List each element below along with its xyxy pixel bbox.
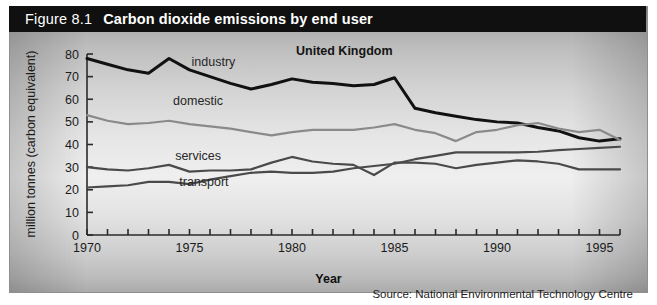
y-tick-label: 70 — [65, 70, 79, 84]
x-tick-label: 1980 — [278, 241, 306, 255]
series-line-transport — [87, 147, 620, 188]
y-tick-label: 40 — [65, 138, 79, 152]
series-label-industry: industry — [192, 55, 237, 69]
series-label-transport: transport — [179, 175, 229, 189]
series-label-services: services — [175, 149, 221, 163]
y-tick-group: 01020304050607080 — [65, 48, 93, 243]
x-tick-label: 1995 — [586, 241, 614, 255]
series-group — [87, 59, 620, 188]
line-chart: 01020304050607080 1970197519801985199019… — [0, 0, 657, 305]
x-tick-label: 1975 — [176, 241, 204, 255]
figure-container: Figure 8.1 Carbon dioxide emissions by e… — [0, 0, 657, 305]
series-label-domestic: domestic — [173, 94, 223, 108]
y-tick-label: 60 — [65, 93, 79, 107]
chart-axes — [87, 54, 620, 235]
x-tick-label: 1990 — [483, 241, 511, 255]
series-line-services — [87, 157, 620, 175]
y-tick-label: 30 — [65, 161, 79, 175]
x-tick-group: 197019751980198519901995 — [73, 229, 620, 255]
y-tick-label: 20 — [65, 183, 79, 197]
y-tick-label: 10 — [65, 206, 79, 220]
x-tick-label: 1985 — [381, 241, 409, 255]
x-tick-label: 1970 — [73, 241, 101, 255]
y-tick-label: 50 — [65, 115, 79, 129]
y-tick-label: 80 — [65, 48, 79, 62]
